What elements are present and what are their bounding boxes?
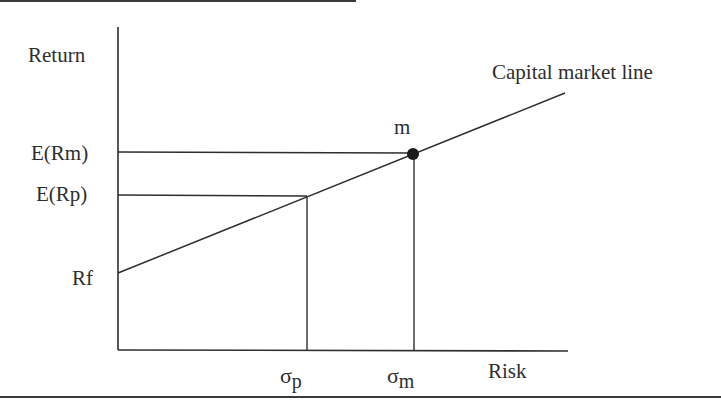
rf-label: Rf — [72, 266, 93, 290]
erm-label: E(Rm) — [31, 141, 88, 165]
market-point-label: m — [394, 115, 410, 139]
erm-guide-line — [118, 152, 413, 153]
sigma-p-label: σp — [280, 363, 302, 393]
sigma-m-label: σm — [387, 363, 415, 392]
sigma-p-symbol: σ — [280, 363, 292, 388]
y-axis-label: Return — [28, 43, 86, 67]
erp-label: E(Rp) — [36, 182, 87, 206]
sigma-m-subscript: m — [399, 370, 415, 392]
capital-market-line-diagram: Return E(Rm) E(Rp) Rf Capital market lin… — [0, 0, 721, 412]
capital-market-line — [118, 93, 565, 273]
line-label: Capital market line — [492, 60, 653, 84]
x-axis-label: Risk — [488, 359, 527, 383]
sigma-p-subscript: p — [292, 370, 302, 393]
market-portfolio-point — [407, 148, 419, 160]
erp-guide-line — [118, 195, 307, 196]
x-axis — [118, 350, 568, 351]
sigma-m-symbol: σ — [387, 363, 399, 388]
